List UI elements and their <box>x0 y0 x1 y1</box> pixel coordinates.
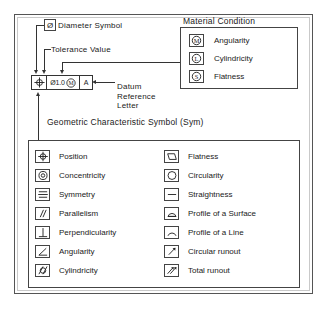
diameter-leader-vertical <box>36 25 37 71</box>
symbol-label: Profile of a Line <box>188 228 244 237</box>
table-row: Symmetry <box>35 185 116 204</box>
tolerance-value-label: Tolerance Value <box>51 45 111 54</box>
tolerance-leader-arrow <box>42 70 46 74</box>
concentricity-symbol <box>35 169 50 182</box>
symbol-label: Position <box>59 152 87 161</box>
symbol-table-right-column: Flatness Circularity Straightness <box>164 147 256 280</box>
table-row: Concentricity <box>35 166 116 185</box>
geometric-characteristic-caption: Geometric Characteristic Symbol (Sym) <box>47 118 204 127</box>
table-row: Position <box>35 147 116 166</box>
profile-of-a-surface-symbol <box>164 207 179 220</box>
material-condition-leader-arrow <box>60 70 64 74</box>
symbol-label: Symmetry <box>59 190 95 199</box>
table-row: Straightness <box>164 185 256 204</box>
fcf-geometric-symbol-cell <box>32 76 47 89</box>
svg-text:M: M <box>68 80 74 86</box>
symbol-label: Perpendicularity <box>59 228 116 237</box>
parallelism-symbol <box>35 207 50 220</box>
table-row: Angularity <box>35 242 116 261</box>
table-row: Total runout <box>164 261 256 280</box>
symbol-label: Straightness <box>188 190 232 199</box>
material-condition-row: L Cylindricity <box>189 52 253 65</box>
circled-s-glyph: S <box>191 71 202 82</box>
diameter-leader-horizontal <box>36 25 44 26</box>
material-condition-label: Cylindricity <box>214 54 253 63</box>
diameter-symbol-chip: Ø <box>44 19 56 31</box>
feature-control-frame[interactable]: Ø1.0 M A <box>31 75 93 90</box>
fcf-tolerance-text: Ø1.0 <box>50 79 64 86</box>
total-runout-symbol <box>164 264 179 277</box>
circular-runout-symbol <box>164 245 179 258</box>
symbol-label: Circularity <box>188 171 224 180</box>
datum-leader-horizontal <box>96 82 115 83</box>
circled-m-symbol: M <box>189 34 204 47</box>
symbol-label: Cylindricity <box>59 266 98 275</box>
diameter-glyph: Ø <box>47 21 53 30</box>
cylindricity-symbol <box>35 264 50 277</box>
material-condition-row: S Flatness <box>189 70 244 83</box>
circularity-symbol <box>164 169 179 182</box>
symbol-label: Concentricity <box>59 171 105 180</box>
position-symbol <box>34 77 45 88</box>
datum-reference-letter-label: Datum Reference Letter <box>117 82 163 111</box>
material-condition-label: Flatness <box>214 72 244 81</box>
material-condition-label: Angularity <box>214 36 250 45</box>
symbol-table-left-column: Position Concentricity <box>35 147 116 280</box>
symbol-label: Circular runout <box>188 247 240 256</box>
tolerance-leader-vertical <box>44 49 45 71</box>
circled-l-glyph: L <box>191 53 202 64</box>
material-condition-panel: M Angularity L Cylindricity S Flatness <box>180 27 298 89</box>
flatness-symbol <box>164 150 179 163</box>
diameter-leader-arrow <box>34 70 38 74</box>
symbol-table-leader-vertical <box>38 96 39 140</box>
straightness-symbol <box>164 188 179 201</box>
position-symbol <box>35 150 50 163</box>
circled-m-glyph: M <box>191 35 202 46</box>
table-row: Flatness <box>164 147 256 166</box>
symbol-label: Profile of a Surface <box>188 209 256 218</box>
fcf-datum-cell: A <box>80 76 92 89</box>
perpendicularity-symbol <box>35 226 50 239</box>
tolerance-leader-horizontal <box>44 49 51 50</box>
circled-l-symbol: L <box>189 52 204 65</box>
table-row: Profile of a Line <box>164 223 256 242</box>
geometric-symbol-table: Position Concentricity <box>28 140 300 288</box>
table-row: Circularity <box>164 166 256 185</box>
diagram-canvas: Ø Diameter Symbol Tolerance Value Ø1.0 M <box>0 0 329 310</box>
svg-text:L: L <box>195 55 199 62</box>
symmetry-symbol <box>35 188 50 201</box>
angularity-symbol <box>35 245 50 258</box>
table-row: Cylindricity <box>35 261 116 280</box>
circled-s-symbol: S <box>189 70 204 83</box>
fcf-datum-letter: A <box>84 79 89 86</box>
table-row: Parallelism <box>35 204 116 223</box>
profile-of-a-line-symbol <box>164 226 179 239</box>
material-condition-title: Material Condition <box>183 17 255 26</box>
circled-m-symbol: M <box>66 78 76 88</box>
fcf-tolerance-cell: Ø1.0 M <box>47 76 80 89</box>
svg-text:M: M <box>194 37 200 44</box>
diameter-symbol-label: Diameter Symbol <box>58 21 122 30</box>
symbol-label: Angularity <box>59 247 95 256</box>
svg-text:S: S <box>195 73 199 80</box>
symbol-label: Total runout <box>188 266 230 275</box>
table-row: Circular runout <box>164 242 256 261</box>
table-row: Profile of a Surface <box>164 204 256 223</box>
material-condition-leader-horizontal <box>62 62 180 63</box>
symbol-label: Parallelism <box>59 209 98 218</box>
table-row: Perpendicularity <box>35 223 116 242</box>
symbol-label: Flatness <box>188 152 218 161</box>
material-condition-row: M Angularity <box>189 34 250 47</box>
